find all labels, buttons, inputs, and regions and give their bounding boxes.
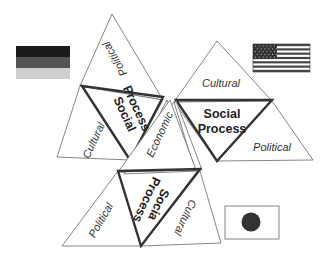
japan-tetrahedron: Political Cultural Socia Process: [62, 169, 221, 246]
us-flag-star: [266, 45, 267, 46]
us-flag-star: [266, 51, 267, 52]
german-flag-red-stripe: [16, 57, 70, 68]
us-flag-star: [268, 54, 269, 55]
us-flag-star: [259, 45, 260, 46]
us-flag-star: [276, 54, 277, 55]
us-flag-star: [264, 54, 265, 55]
us-flag-star: [263, 45, 264, 46]
us-flag-star: [272, 54, 273, 55]
us-flag-star: [257, 54, 258, 55]
us-flag-star: [274, 57, 275, 58]
us-flag-star: [266, 57, 267, 58]
social-process-diagram: Political Cultural Social Process Cultur…: [0, 0, 329, 261]
us-flag-canton: [253, 44, 277, 59]
us-flag-star: [274, 45, 275, 46]
us-flag-star: [261, 54, 262, 55]
us-flag-stripe: [253, 61, 310, 63]
us-flag-star: [270, 51, 271, 52]
german-flag: [16, 46, 70, 79]
us-flag-star: [274, 51, 275, 52]
label-social-us: Social: [204, 107, 241, 121]
label-political-us: Political: [253, 141, 291, 153]
us-flag-stripe: [253, 66, 310, 68]
us-flag-star: [255, 57, 256, 58]
us-flag-star: [276, 48, 277, 49]
us-flag: [253, 44, 310, 72]
label-process-us: Process: [198, 122, 247, 136]
us-flag-star: [268, 48, 269, 49]
us-flag-star: [272, 48, 273, 49]
us-flag-star: [270, 57, 271, 58]
us-flag-star: [255, 51, 256, 52]
us-flag-star: [263, 57, 264, 58]
us-flag-star: [270, 45, 271, 46]
us-flag-star: [255, 45, 256, 46]
us-flag-star: [263, 51, 264, 52]
us-flag-star: [261, 48, 262, 49]
label-cultural-us: Cultural: [202, 77, 240, 89]
japan-flag: [225, 206, 279, 239]
us-flag-star: [257, 48, 258, 49]
us-flag-star: [259, 51, 260, 52]
japan-flag-disc: [242, 213, 261, 232]
german-flag-black-stripe: [16, 46, 70, 57]
german-flag-gold-stripe: [16, 68, 70, 79]
us-flag-stripe: [253, 70, 310, 72]
us-flag-star: [264, 48, 265, 49]
us-flag-star: [259, 57, 260, 58]
